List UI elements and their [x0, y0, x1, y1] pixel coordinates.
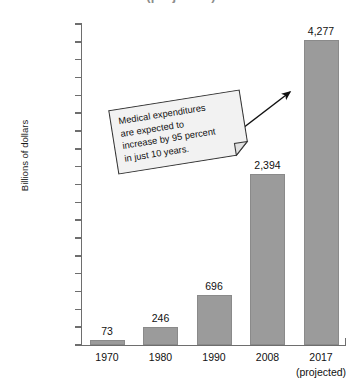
y-tick-mark	[75, 59, 81, 60]
y-tick-mark	[75, 41, 81, 42]
bar[interactable]	[304, 40, 339, 345]
bar[interactable]	[90, 340, 125, 345]
chart-title: (projected)	[0, 0, 362, 3]
y-axis-line	[81, 23, 82, 346]
bar[interactable]	[250, 174, 285, 345]
x-tick-sublabel: (projected)	[281, 366, 361, 378]
bar-value-label: 73	[72, 325, 142, 337]
bar-value-label: 246	[126, 312, 196, 324]
bar[interactable]	[143, 327, 178, 345]
y-tick-mark	[75, 184, 81, 185]
y-tick-mark	[75, 112, 81, 113]
y-tick-mark	[75, 219, 81, 220]
callout-note: Medical expendituresare expected toincre…	[108, 89, 251, 175]
y-tick-mark	[75, 166, 81, 167]
bar[interactable]	[197, 295, 232, 345]
y-axis-title: Billions of dollars	[19, 96, 30, 216]
y-tick-mark	[75, 77, 81, 78]
y-tick-mark	[75, 202, 81, 203]
y-tick-mark	[75, 237, 81, 238]
y-tick-mark	[75, 255, 81, 256]
x-tick-label: 2017	[286, 351, 356, 363]
y-tick-mark	[75, 344, 81, 345]
bar-chart: (projected) Billions of dollars 4,5004,2…	[0, 0, 362, 387]
y-tick-mark	[75, 23, 81, 24]
y-tick-mark	[75, 291, 81, 292]
bar-value-label: 4,277	[286, 25, 356, 37]
bar-value-label: 696	[179, 280, 249, 292]
x-axis-end-tick	[345, 338, 346, 345]
bar-value-label: 2,394	[233, 159, 303, 171]
y-tick-mark	[75, 130, 81, 131]
y-tick-mark	[75, 273, 81, 274]
y-tick-mark	[75, 95, 81, 96]
y-tick-mark	[75, 309, 81, 310]
y-tick-mark	[75, 148, 81, 149]
